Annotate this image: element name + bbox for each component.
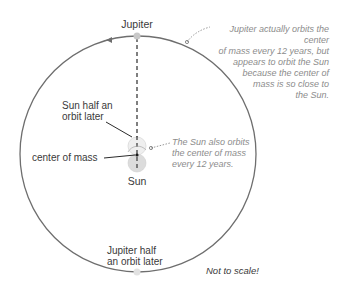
jupiter-note: Jupiter actually orbits the center of ma…: [205, 24, 329, 101]
sun-note-pointer: [151, 143, 170, 148]
not-to-scale-label: Not to scale!: [206, 265, 276, 276]
sun-note-line: The Sun also orbits: [172, 137, 262, 148]
jupiter-note-line: the Sun.: [205, 90, 329, 101]
sun-circle: [128, 154, 146, 172]
jupiter-dot: [134, 33, 141, 40]
jupiter-label: Jupiter: [117, 19, 157, 30]
jupiter-half-orbit-label-line2: an orbit later: [107, 256, 177, 267]
jupiter-half-orbit-label: Jupiter half an orbit later: [107, 245, 177, 267]
center-of-mass-label: center of mass: [32, 152, 104, 163]
jupiter-note-line: of mass every 12 years, but: [205, 46, 329, 57]
sun-label: Sun: [122, 176, 152, 187]
orbit-direction-arrow-icon: [106, 37, 112, 43]
jupiter-note-line: mass is so close to: [205, 79, 329, 90]
sun-note-line: the center of mass: [172, 148, 262, 159]
sun-half-orbit-label: Sun half an orbit later: [62, 100, 132, 122]
sun-half-orbit-label-line2: orbit later: [62, 111, 132, 122]
jupiter-note-line: Jupiter actually orbits the center: [205, 24, 329, 46]
sun-note: The Sun also orbits the center of mass e…: [172, 137, 262, 170]
jupiter-note-line: because the center of: [205, 68, 329, 79]
jupiter-note-line: appears to orbit the Sun: [205, 57, 329, 68]
jupiter-half-orbit-dot: [134, 269, 141, 276]
center-of-mass-dot: [135, 153, 138, 156]
jupiter-half-orbit-label-line1: Jupiter half: [107, 245, 177, 256]
sun-half-orbit-leader: [106, 122, 132, 137]
sun-note-line: every 12 years.: [172, 159, 262, 170]
sun-half-orbit-label-line1: Sun half an: [62, 100, 132, 111]
